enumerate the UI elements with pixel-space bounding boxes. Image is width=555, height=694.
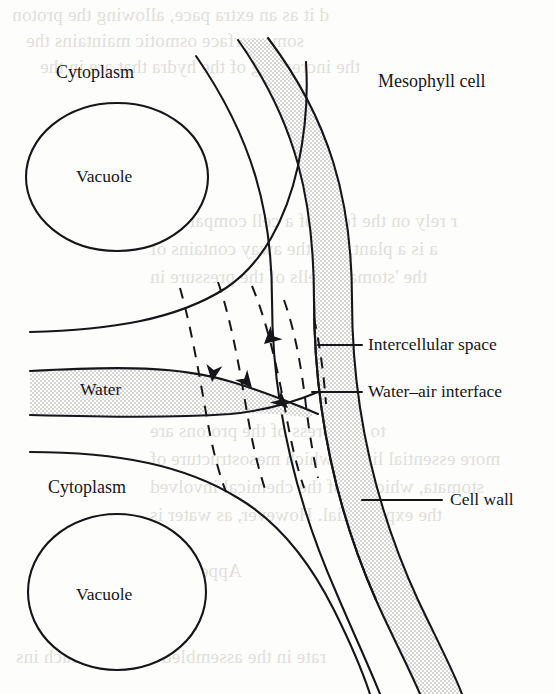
label-mesophyll-cell: Mesophyll cell	[378, 72, 485, 90]
dashed-isopotential-lines	[180, 282, 326, 492]
label-cytoplasm-top: Cytoplasm	[56, 63, 134, 81]
flow-arrow-1	[258, 326, 283, 351]
label-water: Water	[80, 381, 121, 399]
cell-wall-band	[238, 38, 462, 694]
label-intercellular-space: Intercellular space	[368, 336, 497, 354]
label-water-air-interface: Water–air interface	[368, 383, 502, 401]
figure-canvas: d it as an extra pace, allowing the prot…	[0, 0, 555, 694]
label-vacuole-bottom: Vacuole	[76, 586, 132, 604]
label-vacuole-top: Vacuole	[76, 168, 132, 186]
label-cell-wall: Cell wall	[450, 491, 514, 509]
label-cytoplasm-bottom: Cytoplasm	[48, 478, 126, 496]
water-film	[0, 355, 360, 435]
